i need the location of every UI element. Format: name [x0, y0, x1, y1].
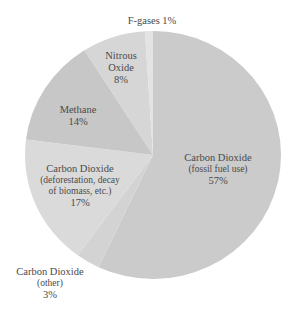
label-co2-deforestation: Carbon Dioxide (deforestation, decay of … — [40, 163, 120, 209]
label-defor-pct: 17% — [40, 197, 120, 209]
label-f-gases: F-gases 1% — [128, 15, 177, 27]
label-co2-fossil: Carbon Dioxide (fossil fuel use) 57% — [184, 152, 251, 187]
label-nitrous-pct: 8% — [105, 74, 137, 86]
label-nitrous-name: Nitrous — [105, 50, 137, 62]
label-nitrous-oxide: Nitrous Oxide 8% — [105, 50, 137, 86]
label-defor-sub-2: of biomass, etc.) — [40, 186, 120, 197]
label-methane-name: Methane — [60, 104, 97, 116]
label-fossil-sub: (fossil fuel use) — [184, 164, 251, 175]
label-methane-pct: 14% — [60, 116, 97, 128]
label-fossil-pct: 57% — [184, 175, 251, 187]
label-nitrous-name-2: Oxide — [105, 62, 137, 74]
label-methane: Methane 14% — [60, 104, 97, 128]
label-f-gases-text: F-gases 1% — [128, 15, 177, 26]
label-defor-sub-1: (deforestation, decay — [40, 175, 120, 186]
label-other-name: Carbon Dioxide — [16, 266, 83, 278]
label-other-sub: (other) — [16, 278, 83, 289]
label-co2-other: Carbon Dioxide (other) 3% — [16, 266, 83, 301]
label-fossil-name: Carbon Dioxide — [184, 152, 251, 164]
label-other-pct: 3% — [16, 289, 83, 301]
label-defor-name: Carbon Dioxide — [40, 163, 120, 175]
